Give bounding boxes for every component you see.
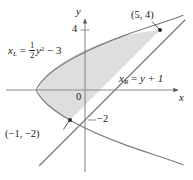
xr-tail: y + 1 bbox=[140, 72, 163, 84]
point-label-upper-intersection: (5, 4) bbox=[131, 10, 154, 21]
xr-subscript: R bbox=[124, 78, 128, 85]
origin-label: 0 bbox=[76, 92, 81, 103]
y-tick-label-4: 4 bbox=[72, 24, 77, 35]
right-curve-equation-label: xR = y + 1 bbox=[119, 73, 163, 86]
xl-fraction-denominator: 2 bbox=[29, 50, 35, 60]
xr-equals: = bbox=[131, 72, 137, 84]
graph-canvas bbox=[0, 0, 193, 180]
y-tick-label-neg-2: −2 bbox=[97, 114, 108, 125]
xl-exponent: 2 bbox=[41, 45, 44, 52]
x-axis-label: x bbox=[179, 93, 184, 104]
left-curve-equation-label: xL = 12y2 − 3 bbox=[8, 41, 61, 59]
xl-fraction-numerator: 1 bbox=[29, 41, 35, 50]
xl-subscript: L bbox=[13, 50, 17, 57]
xl-tail: − 3 bbox=[47, 44, 61, 56]
xl-fraction: 12 bbox=[29, 41, 35, 59]
y-axis-label: y bbox=[76, 7, 81, 18]
point-label-lower-intersection: (−1, −2) bbox=[5, 129, 40, 140]
xl-equals: = bbox=[20, 44, 26, 56]
leader-line-lower bbox=[64, 121, 70, 130]
figure-container: xL = 12y2 − 3 xR = y + 1 (5, 4) (−1, −2)… bbox=[0, 0, 193, 180]
